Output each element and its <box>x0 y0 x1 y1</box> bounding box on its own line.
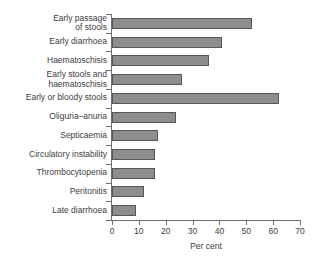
x-tick-label: 40 <box>206 226 232 236</box>
category-label-line: Early or bloody stools <box>0 93 107 103</box>
x-tick <box>166 221 167 225</box>
category-label: Circulatory instability <box>0 150 107 160</box>
y-tick <box>106 70 111 71</box>
x-tick-label: 70 <box>287 226 313 236</box>
plot-area <box>112 14 300 220</box>
bar <box>112 205 136 216</box>
x-tick-label: 0 <box>99 226 125 236</box>
y-tick <box>106 126 111 127</box>
x-tick <box>246 221 247 225</box>
y-tick <box>106 220 111 221</box>
y-tick <box>106 164 111 165</box>
y-tick <box>106 201 111 202</box>
bar <box>112 149 155 160</box>
category-label-line: Late diarrhoea <box>0 206 107 216</box>
category-label: Early diarrhoea <box>0 37 107 47</box>
y-tick <box>106 14 111 15</box>
bar-chart: Early passageof stoolsEarly diarrhoeaHae… <box>0 0 320 265</box>
category-label-line: Thrombocytopenia <box>0 168 107 178</box>
x-tick-label: 30 <box>180 226 206 236</box>
bar <box>112 186 144 197</box>
category-label-line: haematoschisis <box>0 80 107 90</box>
category-label: Early or bloody stools <box>0 93 107 103</box>
x-tick <box>193 221 194 225</box>
bar <box>112 130 158 141</box>
category-label-line: Circulatory instability <box>0 150 107 160</box>
category-label: Early passageof stools <box>0 14 107 33</box>
bar <box>112 168 155 179</box>
y-tick <box>106 145 111 146</box>
x-tick <box>273 221 274 225</box>
bar <box>112 93 279 104</box>
category-label: Oliguria–anuria <box>0 112 107 122</box>
bar <box>112 37 222 48</box>
category-label-line: Oliguria–anuria <box>0 112 107 122</box>
category-label-line: Haematoschisis <box>0 56 107 66</box>
category-label: Early stools andhaematoschisis <box>0 70 107 89</box>
x-tick-label: 10 <box>126 226 152 236</box>
x-tick-label: 50 <box>233 226 259 236</box>
category-label-group: Early passageof stoolsEarly diarrhoeaHae… <box>0 14 107 220</box>
y-tick <box>106 183 111 184</box>
category-label-line: Peritonitis <box>0 187 107 197</box>
x-tick <box>219 221 220 225</box>
category-label-line: of stools <box>0 23 107 33</box>
y-tick <box>106 33 111 34</box>
x-tick <box>300 221 301 225</box>
bar <box>112 18 252 29</box>
x-tick <box>139 221 140 225</box>
category-label-line: Early diarrhoea <box>0 37 107 47</box>
x-tick-label: 60 <box>260 226 286 236</box>
x-tick-label: 20 <box>153 226 179 236</box>
bar <box>112 74 182 85</box>
category-label: Septicaemia <box>0 131 107 141</box>
category-label: Thrombocytopenia <box>0 168 107 178</box>
y-tick <box>106 89 111 90</box>
bar <box>112 55 209 66</box>
category-label-line: Septicaemia <box>0 131 107 141</box>
bar <box>112 112 176 123</box>
y-tick <box>106 51 111 52</box>
x-tick <box>112 221 113 225</box>
y-tick <box>106 108 111 109</box>
category-label: Haematoschisis <box>0 56 107 66</box>
category-label: Late diarrhoea <box>0 206 107 216</box>
category-label: Peritonitis <box>0 187 107 197</box>
x-axis-title: Per cent <box>111 241 301 251</box>
